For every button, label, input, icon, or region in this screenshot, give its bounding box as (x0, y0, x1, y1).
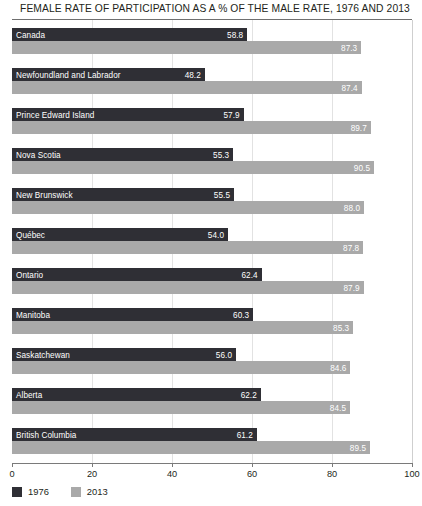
plot-area: Canada58.887.3Newfoundland and Labrador4… (12, 20, 412, 463)
chart-row: Nova Scotia55.390.5 (12, 144, 412, 184)
chart-row: Prince Edward Island57.989.7 (12, 104, 412, 144)
bar-1976: New Brunswick55.5 (12, 188, 234, 201)
chart-row: British Columbia61.289.5 (12, 424, 412, 464)
plot-right-border (412, 20, 413, 463)
chart-row: Manitoba60.385.3 (12, 304, 412, 344)
value-label-2013: 88.0 (344, 203, 360, 212)
x-tick-label: 40 (167, 469, 177, 479)
bar-2013: 84.5 (12, 401, 350, 414)
category-label: Nova Scotia (16, 150, 61, 159)
value-label-1976: 60.3 (233, 310, 249, 319)
value-label-2013: 85.3 (333, 323, 349, 332)
category-label: Saskatchewan (16, 350, 70, 359)
value-label-1976: 58.8 (227, 30, 243, 39)
x-tick-label: 80 (327, 469, 337, 479)
chart-row: New Brunswick55.588.0 (12, 184, 412, 224)
x-tick-mark (412, 463, 413, 467)
bar-1976: Ontario62.4 (12, 268, 262, 281)
x-tick-label: 60 (247, 469, 257, 479)
x-tick-label: 100 (404, 469, 419, 479)
bar-2013: 85.3 (12, 321, 353, 334)
x-tick-mark (252, 463, 253, 467)
chart-row: Alberta62.284.5 (12, 384, 412, 424)
bar-1976: Manitoba60.3 (12, 308, 253, 321)
category-label: Ontario (16, 270, 43, 279)
value-label-2013: 90.5 (354, 163, 370, 172)
legend-swatch-icon (71, 487, 81, 497)
value-label-1976: 57.9 (223, 110, 239, 119)
value-label-1976: 61.2 (237, 430, 253, 439)
value-label-1976: 56.0 (216, 350, 232, 359)
chart-legend: 19762013 (12, 486, 130, 497)
x-tick-mark (92, 463, 93, 467)
legend-item-1976: 1976 (12, 486, 49, 497)
page-title: FEMALE RATE OF PARTICIPATION AS A % OF T… (20, 3, 410, 14)
category-label: New Brunswick (16, 190, 73, 199)
bar-2013: 89.7 (12, 121, 371, 134)
x-tick-mark (172, 463, 173, 467)
value-label-1976: 55.3 (213, 150, 229, 159)
bar-2013: 90.5 (12, 161, 374, 174)
chart-row: Québec54.087.8 (12, 224, 412, 264)
bar-2013: 87.3 (12, 41, 361, 54)
chart-row: Ontario62.487.9 (12, 264, 412, 304)
value-label-2013: 87.8 (343, 243, 359, 252)
value-label-2013: 89.5 (350, 443, 366, 452)
bar-2013: 84.6 (12, 361, 350, 374)
category-label: Alberta (16, 390, 42, 399)
category-label: Canada (16, 30, 45, 39)
bar-2013: 87.9 (12, 281, 364, 294)
bar-1976: Saskatchewan56.0 (12, 348, 236, 361)
bar-2013: 87.4 (12, 81, 362, 94)
x-axis-line (12, 463, 412, 464)
x-tick-mark (12, 463, 13, 467)
legend-swatch-icon (12, 487, 22, 497)
value-label-1976: 62.4 (241, 270, 257, 279)
bar-1976: Canada58.8 (12, 28, 247, 41)
bar-1976: Alberta62.2 (12, 388, 261, 401)
legend-label: 1976 (28, 486, 49, 497)
value-label-1976: 48.2 (185, 70, 201, 79)
x-tick-label: 0 (9, 469, 14, 479)
value-label-2013: 84.5 (330, 403, 346, 412)
legend-item-2013: 2013 (71, 486, 108, 497)
chart-row: Canada58.887.3 (12, 24, 412, 64)
bar-1976: Québec54.0 (12, 228, 228, 241)
category-label: Prince Edward Island (16, 110, 94, 119)
bar-1976: Newfoundland and Labrador48.2 (12, 68, 205, 81)
value-label-1976: 62.2 (241, 390, 257, 399)
bar-2013: 87.8 (12, 241, 363, 254)
legend-label: 2013 (87, 486, 108, 497)
x-tick-label: 20 (87, 469, 97, 479)
bar-2013: 88.0 (12, 201, 364, 214)
value-label-1976: 54.0 (208, 230, 224, 239)
bar-1976: British Columbia61.2 (12, 428, 257, 441)
bar-2013: 89.5 (12, 441, 370, 454)
value-label-2013: 87.9 (343, 283, 359, 292)
x-tick-mark (332, 463, 333, 467)
bar-1976: Nova Scotia55.3 (12, 148, 233, 161)
chart-row: Newfoundland and Labrador48.287.4 (12, 64, 412, 104)
bar-1976: Prince Edward Island57.9 (12, 108, 244, 121)
value-label-2013: 87.4 (341, 83, 357, 92)
category-label: Manitoba (16, 310, 50, 319)
category-label: Québec (16, 230, 45, 239)
value-label-1976: 55.5 (214, 190, 230, 199)
value-label-2013: 89.7 (351, 123, 367, 132)
category-label: Newfoundland and Labrador (16, 70, 121, 79)
value-label-2013: 87.3 (341, 43, 357, 52)
chart-row: Saskatchewan56.084.6 (12, 344, 412, 384)
category-label: British Columbia (16, 430, 76, 439)
value-label-2013: 84.6 (330, 363, 346, 372)
